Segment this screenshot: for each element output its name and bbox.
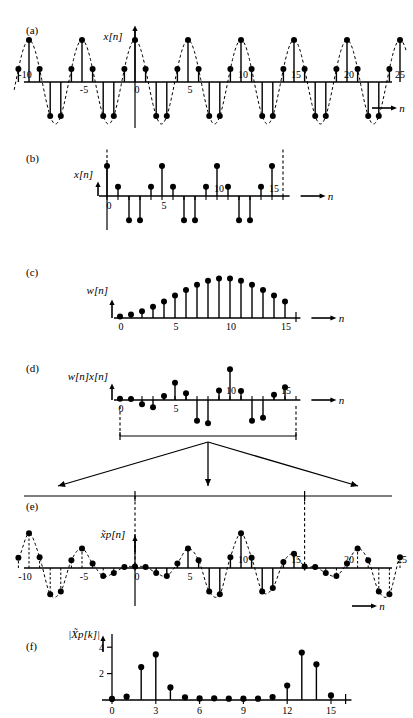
stem-marker	[365, 557, 371, 563]
stem-marker	[143, 66, 149, 72]
stem-marker	[167, 684, 173, 690]
stem-marker	[153, 113, 159, 119]
panel-d-xtick: 5	[174, 403, 179, 414]
stem-marker	[58, 113, 64, 119]
stem-marker	[161, 299, 167, 305]
stem-marker	[238, 278, 244, 284]
stem-marker	[302, 66, 308, 72]
stem-marker	[259, 588, 265, 594]
panel-c-xtick: 15	[281, 321, 291, 332]
stem-marker	[355, 66, 361, 72]
n-axis-arrow	[352, 603, 377, 608]
stem-marker	[299, 649, 305, 655]
panel-e-xtick: 5	[188, 571, 193, 582]
axis-label-n: n	[379, 600, 385, 612]
stem-marker	[139, 308, 145, 314]
stem-marker	[100, 573, 106, 579]
stem-marker	[172, 380, 178, 386]
stem-marker	[386, 66, 392, 72]
stem-marker	[148, 184, 154, 190]
stem-marker	[104, 163, 110, 169]
panel-d-xtick: 10	[226, 385, 236, 396]
stem-marker	[111, 113, 117, 119]
stem-marker	[137, 217, 143, 223]
stem-marker	[238, 388, 244, 394]
figure-container: x[n]n-10-50510152025(a)x[n]n051015(b)w[n…	[0, 0, 413, 718]
panel-e-xtick: -5	[80, 571, 88, 582]
stem-marker	[282, 299, 288, 305]
axis-label-n: n	[339, 394, 345, 406]
panel-d-xtick: 15	[281, 385, 291, 396]
stem-marker	[126, 217, 132, 223]
stem-marker	[183, 390, 189, 396]
stem-marker	[128, 311, 134, 317]
panel-b-letter: (b)	[26, 152, 39, 164]
stem-marker	[47, 591, 53, 597]
n-axis-arrow	[301, 193, 326, 198]
axis-arrow	[109, 384, 114, 401]
panel-c-letter: (c)	[26, 266, 38, 278]
stem-marker	[143, 564, 149, 570]
stem-marker	[26, 37, 32, 43]
panel-e-xtick: 25	[397, 554, 407, 565]
stem-marker	[181, 217, 187, 223]
stem-marker	[328, 692, 334, 698]
stem-marker	[376, 588, 382, 594]
panel-b-xtick: 15	[269, 183, 279, 194]
stem-marker	[111, 570, 117, 576]
stem-marker	[164, 573, 170, 579]
stem-marker	[238, 37, 244, 43]
stem-marker	[164, 113, 170, 119]
n-axis-arrow	[311, 397, 336, 402]
stem-marker	[26, 530, 32, 536]
stem-marker	[205, 278, 211, 284]
stem-marker	[238, 530, 244, 536]
stem-marker	[185, 37, 191, 43]
stem-marker	[255, 696, 261, 702]
stem-marker	[138, 664, 144, 670]
stem-marker	[90, 66, 96, 72]
stem-marker	[172, 293, 178, 299]
panel-a-xtick: 0	[135, 84, 140, 95]
stem-marker	[226, 696, 232, 702]
stem-marker	[68, 66, 74, 72]
panel-e-xtick: 20	[344, 554, 354, 565]
stem-marker	[280, 559, 286, 565]
stem-marker	[150, 304, 156, 310]
panel-c-xtick: 5	[174, 321, 179, 332]
stem-marker	[121, 564, 127, 570]
stem-marker	[365, 113, 371, 119]
stem-marker	[270, 585, 276, 591]
panel-d-xtick: 0	[119, 403, 124, 414]
panel-d-ylabel: w[n]x[n]	[68, 370, 108, 382]
stem-marker	[121, 66, 127, 72]
panel-a-chart: x[n]n-10-50510152025	[0, 18, 413, 138]
panel-c-ylabel: w[n]	[87, 284, 108, 296]
stem-marker	[37, 66, 43, 72]
stem-marker	[183, 287, 189, 293]
stem-marker	[302, 564, 308, 570]
stem-marker	[206, 113, 212, 119]
panel-e-chart: x̃p[n]n-10-50510152025	[0, 490, 413, 620]
stem-marker	[249, 555, 255, 561]
stem-marker	[100, 113, 106, 119]
panel-a-letter: (a)	[26, 24, 38, 36]
stem-marker	[323, 113, 329, 119]
stem-marker	[174, 66, 180, 72]
panel-b-xtick: 10	[214, 183, 224, 194]
stem-marker	[214, 163, 220, 169]
axis-label-n: n	[339, 312, 345, 324]
panel-d-letter: (d)	[26, 362, 39, 374]
stem-marker	[206, 588, 212, 594]
panel-a-xtick: -5	[80, 84, 88, 95]
stem-marker	[291, 37, 297, 43]
stem-marker	[139, 401, 145, 407]
panel-a-xtick: 20	[344, 69, 354, 80]
stem-marker	[196, 557, 202, 563]
stem-marker	[344, 37, 350, 43]
replication-arrow	[58, 442, 208, 487]
stem-marker	[280, 66, 286, 72]
panel-b-xtick: 5	[162, 200, 167, 211]
stem-marker	[227, 366, 233, 372]
stem-marker	[249, 282, 255, 288]
